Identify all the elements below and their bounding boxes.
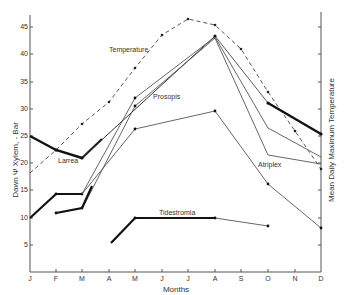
y-axis-title-left: Dawn Ψ Xylem, - Bar xyxy=(11,122,20,198)
y-tick-label: 10 xyxy=(20,214,28,221)
series-larrea-mid-b xyxy=(82,139,102,158)
chart: 5 10 15 20 25 30 35 40 45 J F M xyxy=(0,0,344,295)
label-prosopis: Prosopis xyxy=(153,93,181,101)
x-tick-label: A xyxy=(213,275,218,282)
y-tick-label: 35 xyxy=(20,78,28,85)
x-tick-label: J xyxy=(186,275,190,282)
y-axis-title-right: Mean Daily Maximum Temperature xyxy=(327,78,336,202)
prosopis-markers xyxy=(55,97,137,215)
x-tick-labels: J F M A M J J A S O N D xyxy=(28,275,323,282)
x-tick-label: M xyxy=(79,275,85,282)
label-temperature: Temperature xyxy=(109,46,148,54)
y-tick-label: 30 xyxy=(20,105,28,112)
series-larrea-end xyxy=(268,103,321,134)
larrea-markers xyxy=(54,34,322,159)
x-tick-label: A xyxy=(107,275,112,282)
series-tidestromia xyxy=(111,218,215,243)
x-axis-title: Months xyxy=(163,285,189,294)
series-larrea-desc xyxy=(215,36,268,103)
y-tick-label: 20 xyxy=(20,159,28,166)
x-tick-label: J xyxy=(160,275,164,282)
series-larrea xyxy=(30,136,82,158)
y-tick-label: 15 xyxy=(20,186,28,193)
y-tick-label: 5 xyxy=(24,241,28,248)
series-tidestromia-end xyxy=(215,218,268,226)
series-prosopis-2-start xyxy=(56,186,92,213)
x-tick-label: F xyxy=(54,275,58,282)
y-tick-label: 40 xyxy=(20,50,28,57)
y-tick-labels: 5 10 15 20 25 30 35 40 45 xyxy=(20,23,28,248)
label-tidestromia: Tidestromia xyxy=(159,209,195,216)
x-tick-label: O xyxy=(265,275,271,282)
x-tick-label: J xyxy=(28,275,32,282)
x-tick-label: D xyxy=(318,275,323,282)
x-tick-label: N xyxy=(292,275,297,282)
x-tick-label: S xyxy=(239,275,244,282)
y-tick-label: 25 xyxy=(20,132,28,139)
series-prosopis xyxy=(82,37,321,194)
x-tick-label: M xyxy=(132,275,138,282)
series-prosopis-2 xyxy=(82,38,321,209)
y-tick-label: 45 xyxy=(20,23,28,30)
label-atriplex: Atriplex xyxy=(258,161,282,169)
label-larrea: Larrea xyxy=(58,157,78,164)
temperature-markers xyxy=(55,18,323,171)
